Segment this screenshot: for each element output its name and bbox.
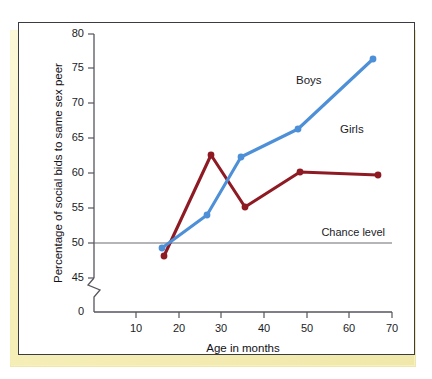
x-tick-label: 30: [215, 322, 227, 334]
x-tick-labels: 10 20 30 40 50 60 70: [130, 322, 398, 334]
y-tick-label: 80: [72, 27, 84, 39]
y-tick-labels: 80 75 70 65 60 55 50 45 0: [72, 27, 84, 317]
x-tick-label: 70: [386, 322, 398, 334]
data-point: [375, 172, 382, 179]
x-axis-title: Age in months: [206, 342, 280, 354]
data-point: [295, 126, 302, 133]
y-tick-label: 55: [72, 201, 84, 213]
line-chart: 80 75 70 65 60 55 50 45 0 10: [0, 0, 432, 379]
figure-root: 80 75 70 65 60 55 50 45 0 10: [0, 0, 432, 379]
y-tick-label: 70: [72, 96, 84, 108]
y-ticks: [88, 34, 94, 278]
x-tick-label: 60: [343, 322, 355, 334]
y-axis-break: [88, 278, 100, 312]
y-tick-label: 65: [72, 131, 84, 143]
data-point: [159, 245, 166, 252]
series-label-girls: Girls: [340, 123, 364, 135]
data-point: [370, 56, 377, 63]
chance-level-label: Chance level: [321, 226, 385, 238]
data-point: [297, 169, 304, 176]
y-tick-label: 50: [72, 236, 84, 248]
data-point: [208, 152, 215, 159]
x-ticks: [136, 312, 392, 318]
series-label-boys: Boys: [296, 74, 322, 86]
series-line-boys: [162, 59, 373, 248]
data-point: [238, 154, 245, 161]
y-tick-label: 75: [72, 61, 84, 73]
x-tick-label: 10: [130, 322, 142, 334]
data-point: [204, 212, 211, 219]
data-point: [242, 204, 249, 211]
y-tick-label: 60: [72, 166, 84, 178]
y-axis-title: Percentage of social bids to same sex pe…: [52, 63, 64, 283]
x-tick-label: 40: [258, 322, 270, 334]
series-line-girls: [164, 155, 378, 256]
x-tick-label: 20: [173, 322, 185, 334]
plot-area: 80 75 70 65 60 55 50 45 0 10: [0, 0, 432, 379]
x-tick-label: 50: [301, 322, 313, 334]
data-point: [161, 253, 168, 260]
y-origin-label: 0: [78, 305, 84, 317]
y-tick-label: 45: [72, 271, 84, 283]
